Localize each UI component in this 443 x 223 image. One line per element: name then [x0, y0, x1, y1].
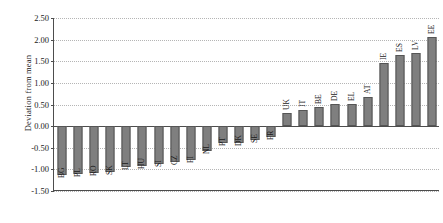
y-axis-tick-label: 2.00: [9, 35, 49, 44]
bar-category-label: IT: [299, 100, 307, 107]
bar-category-label: FR: [267, 131, 275, 140]
bar-group: LV: [408, 18, 424, 190]
bar-category-label: LT: [123, 162, 131, 171]
bar-category-label: PT: [219, 138, 227, 147]
y-axis-tick-label: -1.50: [9, 187, 49, 196]
bar-category-label: DE: [332, 91, 340, 101]
bar-category-label: RO: [90, 165, 98, 176]
y-axis-tick-labels: 2.502.001.501.000.500.00-0.50-1.00-1.50: [0, 0, 49, 223]
y-axis-tick-label: 2.50: [9, 14, 49, 23]
bar-chart: Deviation from mean 2.502.001.501.000.50…: [0, 0, 443, 223]
bar-category-label: SE: [251, 134, 259, 143]
bar[interactable]: [315, 107, 324, 126]
plot-area: BGPLROSKLTHUSICZFINLPTDKSEFRUKITBEDEELAT…: [53, 18, 439, 191]
bar-category-label: LV: [412, 40, 420, 49]
bar[interactable]: [299, 110, 308, 126]
bar[interactable]: [186, 126, 195, 160]
y-axis-tick-label: 0.00: [9, 122, 49, 131]
bar-category-label: SI: [155, 160, 163, 167]
bar[interactable]: [74, 126, 83, 174]
bar-category-label: EE: [428, 25, 436, 34]
bar[interactable]: [347, 104, 356, 126]
bar-group: AT: [360, 18, 376, 190]
bar-category-label: IE: [380, 53, 388, 60]
bar-group: FI: [183, 18, 199, 190]
bar[interactable]: [379, 63, 388, 126]
y-axis-tick-label: -0.50: [9, 144, 49, 153]
bar-group: CZ: [167, 18, 183, 190]
bar-category-label: FI: [187, 156, 195, 163]
bar-category-label: SK: [106, 165, 114, 175]
bar-group: SK: [102, 18, 118, 190]
bar-group: HU: [134, 18, 150, 190]
bar-category-label: EL: [348, 91, 356, 100]
bar-category-label: DK: [235, 135, 243, 146]
bar-series: BGPLROSKLTHUSICZFINLPTDKSEFRUKITBEDEELAT…: [54, 18, 439, 190]
bar-group: SI: [151, 18, 167, 190]
bar-group: UK: [279, 18, 295, 190]
bar-category-label: BG: [58, 167, 66, 178]
bar-group: BG: [54, 18, 70, 190]
bar-group: SE: [247, 18, 263, 190]
y-axis-tick: [51, 191, 54, 192]
y-axis-tick-label: -1.00: [9, 165, 49, 174]
bar-category-label: UK: [283, 99, 291, 110]
bar[interactable]: [395, 55, 404, 126]
bar-group: EE: [424, 18, 440, 190]
bar-group: DK: [231, 18, 247, 190]
bar-group: IT: [295, 18, 311, 190]
bar-category-label: HU: [139, 158, 147, 169]
bar-group: PT: [215, 18, 231, 190]
bar[interactable]: [427, 37, 436, 126]
bar-group: EL: [344, 18, 360, 190]
bar-category-label: ES: [396, 43, 404, 52]
bar-group: IE: [376, 18, 392, 190]
bar[interactable]: [363, 97, 372, 126]
y-axis-tick-label: 0.50: [9, 100, 49, 109]
bar-category-label: PL: [74, 168, 82, 177]
bar-category-label: AT: [364, 84, 372, 93]
bar-group: BE: [311, 18, 327, 190]
y-axis-tick-label: 1.00: [9, 79, 49, 88]
bar[interactable]: [283, 113, 292, 126]
bar-group: DE: [327, 18, 343, 190]
bar-group: NL: [199, 18, 215, 190]
bar[interactable]: [411, 53, 420, 127]
bar-category-label: CZ: [171, 156, 179, 166]
bar-group: RO: [86, 18, 102, 190]
bar-group: PL: [70, 18, 86, 190]
bar-group: ES: [392, 18, 408, 190]
bar-category-label: NL: [203, 144, 211, 154]
gridline: [54, 191, 439, 192]
y-axis-tick-label: 1.50: [9, 57, 49, 66]
bar-group: LT: [118, 18, 134, 190]
bar-group: FR: [263, 18, 279, 190]
bar[interactable]: [154, 126, 163, 164]
bar[interactable]: [331, 104, 340, 126]
bar-category-label: BE: [316, 94, 324, 104]
